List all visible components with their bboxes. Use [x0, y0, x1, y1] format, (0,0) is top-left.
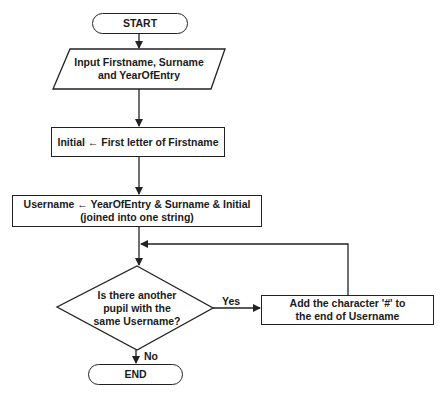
decision-line1: Is there another	[98, 289, 177, 302]
yes-label: Yes	[222, 295, 240, 307]
decision-line3: same Username?	[94, 315, 181, 328]
start-terminator: START	[92, 13, 188, 34]
initial-process: Initial ← First letter of Firstname	[51, 127, 225, 157]
username-process: Username ← YearOfEntry & Surname & Initi…	[12, 195, 262, 227]
end-label: END	[124, 368, 146, 381]
decision-line2: pupil with the	[103, 302, 171, 315]
input-line1: Input Firstname, Surname	[74, 56, 204, 69]
username-line2: (joined into one string)	[80, 211, 194, 224]
add-hash-line2: the end of Username	[296, 310, 400, 323]
end-terminator: END	[88, 364, 183, 385]
no-label: No	[144, 350, 158, 362]
input-line2: and YearOfEntry	[98, 69, 180, 82]
input-node: Input Firstname, Surname and YearOfEntry	[60, 50, 218, 88]
add-hash-process: Add the character '#' to the end of User…	[261, 295, 434, 325]
username-line1: Username ← YearOfEntry & Surname & Initi…	[24, 198, 251, 211]
start-label: START	[123, 17, 157, 30]
decision-node: Is there another pupil with the same Use…	[77, 286, 197, 330]
initial-label: Initial ← First letter of Firstname	[57, 136, 218, 149]
add-hash-line1: Add the character '#' to	[290, 297, 406, 310]
